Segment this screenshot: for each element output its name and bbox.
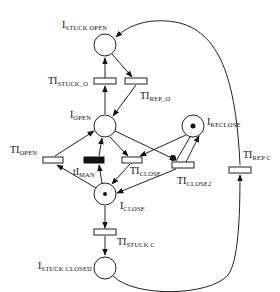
arc-closet-to-close	[112, 164, 130, 184]
arc-repc-to-stuckopen	[116, 21, 240, 165]
arc-man-to-open	[99, 138, 102, 156]
label-stuck-closed: ISTUCK CLOSED	[38, 261, 92, 274]
arc-stuckclosed-to-repc	[113, 175, 240, 292]
transition-man-immediate[interactable]	[84, 157, 104, 163]
label-stuck-c: TISTUCK C	[117, 237, 155, 250]
arc-reclose-to-close	[140, 135, 186, 156]
label-close2: TICLOSE2	[177, 176, 212, 189]
arc-close-to-man	[99, 165, 102, 183]
transition-rep-c[interactable]	[229, 167, 251, 173]
label-open-place: IOPEN	[70, 110, 91, 123]
label-man: tIMAN	[73, 167, 95, 180]
transition-close[interactable]	[122, 157, 142, 163]
transition-rep-o[interactable]	[125, 78, 147, 84]
label-rep-c: TIREP C	[243, 150, 271, 163]
transition-stuck-c[interactable]	[94, 229, 116, 235]
arc-open-to-close2	[115, 131, 176, 160]
label-close-place: ICLOSE	[120, 201, 145, 214]
arc-stuckopen-to-repo	[112, 54, 132, 77]
label-rep-o: TIREP_O	[140, 91, 170, 104]
place-open[interactable]	[94, 115, 116, 137]
transition-open[interactable]	[43, 157, 63, 163]
transition-close2[interactable]	[172, 162, 194, 168]
arc-opent-to-open	[55, 131, 94, 156]
token-close	[103, 192, 107, 196]
arc-repo-to-open	[113, 85, 136, 116]
label-stuck-open: ISTUCK OPEN	[62, 20, 107, 33]
inhibitor-dot	[170, 155, 176, 161]
transition-stuck-o[interactable]	[94, 78, 116, 84]
label-stuck-o: TISTUCK_O	[48, 76, 88, 89]
place-stuck-closed[interactable]	[94, 257, 116, 279]
token-reclose	[191, 124, 196, 129]
arc-open-to-close	[110, 137, 128, 156]
place-stuck-open[interactable]	[94, 34, 116, 56]
label-reclose: IRECLOSE	[207, 117, 241, 130]
label-close-transition: TICLOSE	[130, 166, 161, 179]
label-open-transition: TIOPEN	[10, 145, 37, 158]
